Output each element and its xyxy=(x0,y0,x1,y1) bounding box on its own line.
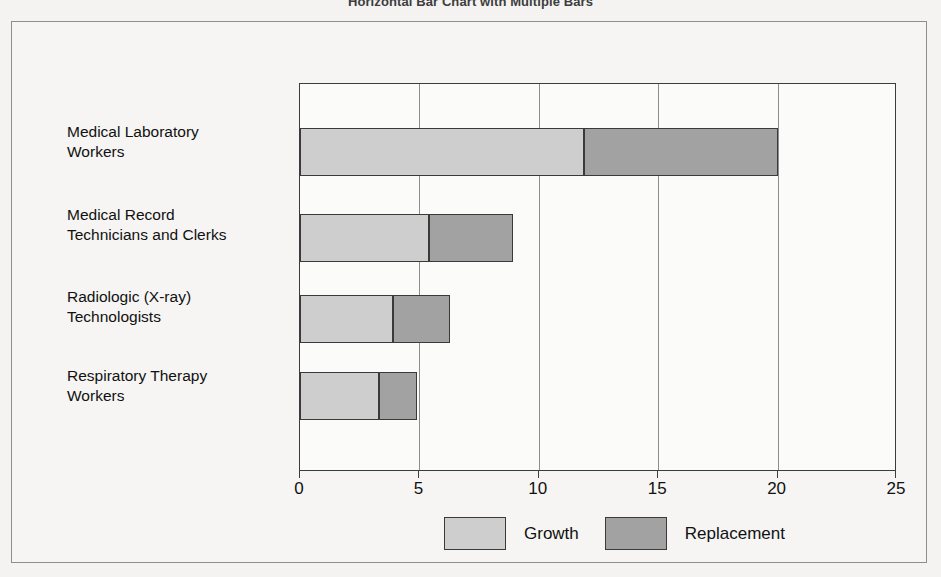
bar-segment-replacement xyxy=(584,128,777,176)
x-axis-tick xyxy=(538,471,539,478)
x-axis-tick-label: 5 xyxy=(414,479,423,499)
category-label: Radiologic (X-ray)Technologists xyxy=(67,287,297,327)
bar-segment-growth xyxy=(300,372,379,420)
x-axis-tick xyxy=(895,471,896,478)
legend-swatch-growth xyxy=(444,517,506,550)
plot-area xyxy=(299,83,896,471)
category-label-line: Technicians and Clerks xyxy=(67,225,297,245)
x-axis-tick xyxy=(418,471,419,478)
x-axis-tick-label: 20 xyxy=(767,479,786,499)
x-axis-tick-label: 10 xyxy=(528,479,547,499)
category-label: Medical RecordTechnicians and Clerks xyxy=(67,205,297,245)
legend-label: Replacement xyxy=(685,524,785,544)
x-axis-tick-label: 25 xyxy=(887,479,906,499)
bar-segment-growth xyxy=(300,214,429,262)
category-label-line: Medical Record xyxy=(67,205,297,225)
category-label-line: Workers xyxy=(67,386,297,406)
category-label-line: Workers xyxy=(67,142,297,162)
category-label-line: Respiratory Therapy xyxy=(67,366,297,386)
bar-segment-growth xyxy=(300,128,584,176)
category-label: Medical LaboratoryWorkers xyxy=(67,122,297,162)
gridline xyxy=(778,84,779,470)
x-axis-tick xyxy=(657,471,658,478)
legend-item-growth: Growth xyxy=(444,517,579,550)
chart-legend: GrowthReplacement xyxy=(444,517,785,550)
category-label-line: Technologists xyxy=(67,307,297,327)
category-label-line: Medical Laboratory xyxy=(67,122,297,142)
x-axis: 0510152025 xyxy=(299,471,896,479)
x-axis-tick-label: 15 xyxy=(648,479,667,499)
bar-segment-replacement xyxy=(379,372,417,420)
x-axis-tick xyxy=(299,471,300,478)
legend-label: Growth xyxy=(524,524,579,544)
bar-segment-replacement xyxy=(393,295,450,343)
bar-segment-replacement xyxy=(429,214,513,262)
x-axis-tick-label: 0 xyxy=(294,479,303,499)
bar-segment-growth xyxy=(300,295,393,343)
legend-item-replacement: Replacement xyxy=(605,517,785,550)
legend-swatch-replacement xyxy=(605,517,667,550)
category-label-line: Radiologic (X-ray) xyxy=(67,287,297,307)
chart-title: Horizontal Bar Chart with Multiple Bars xyxy=(0,0,941,9)
figure-frame: Medical LaboratoryWorkersMedical RecordT… xyxy=(11,21,927,563)
category-label: Respiratory TherapyWorkers xyxy=(67,366,297,406)
x-axis-tick xyxy=(777,471,778,478)
